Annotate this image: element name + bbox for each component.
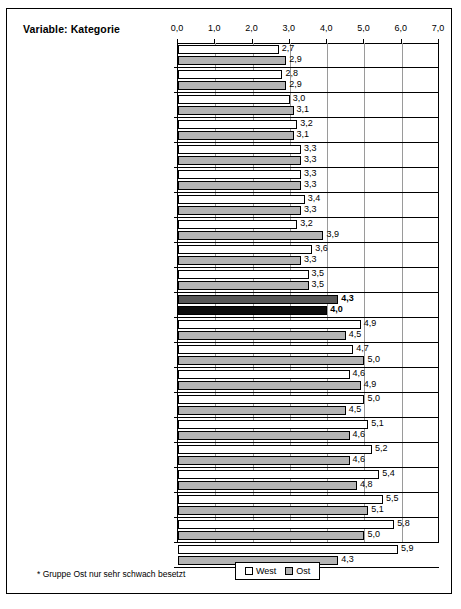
bar-value-label: 4,7	[356, 344, 369, 353]
legend: West Ost	[235, 562, 320, 580]
bar-ost	[178, 256, 301, 265]
chart-row: Arbeit mit Computer: nein5,24,6	[178, 443, 439, 468]
chart-row: Arbeitsorientierung: inhaltl.expressiv3,…	[178, 168, 439, 193]
bar-value-label: 5,4	[382, 469, 395, 478]
bar-west	[178, 195, 305, 204]
bar-value-label: 4,3	[341, 555, 354, 564]
bar-west	[178, 345, 353, 354]
bar-value-label: 4,6	[353, 430, 366, 439]
chart-row: Ältere: insgesamt4,34,0	[178, 293, 439, 318]
plot-area: Beschäftigungsstatus: verbeamtet*2,72,9A…	[177, 43, 439, 543]
bar-ost	[178, 356, 364, 365]
bar-west	[178, 120, 297, 129]
bar-west	[178, 70, 282, 79]
bar-value-label: 3,2	[300, 119, 313, 128]
x-tick-label: 6,0	[394, 23, 407, 33]
chart-row: Soziale Schicht: untere Schicht5,55,1	[178, 493, 439, 518]
bar-value-label: 5,0	[367, 394, 380, 403]
legend-label-west: West	[256, 566, 276, 576]
bar-west	[178, 370, 350, 379]
bar-value-label: 4,6	[353, 455, 366, 464]
bar-value-label: 5,9	[401, 544, 414, 553]
bar-ost	[178, 156, 301, 165]
bar-ost	[178, 181, 301, 190]
chart-row: Beschäftigungsstatus: verbeamtet*2,72,9	[178, 43, 439, 68]
chart-row: Erwerbsstatus: stille Reserve4,75,0	[178, 343, 439, 368]
bar-ost	[178, 506, 368, 515]
legend-item-ost: Ost	[285, 566, 310, 576]
chart-row: Berufsverlauf: aufwärts3,33,3	[178, 143, 439, 168]
bar-value-label: 3,3	[304, 155, 317, 164]
legend-swatch-west-icon	[245, 567, 253, 575]
bar-west	[178, 470, 379, 479]
bar-west	[178, 495, 383, 504]
bar-ost	[178, 281, 309, 290]
bar-value-label: 3,2	[300, 219, 313, 228]
chart-row: wirtschaftsbereich: Landwirtschaft etc.4…	[178, 368, 439, 393]
x-tick-label: 2,0	[245, 23, 258, 33]
bar-value-label: 3,5	[312, 280, 325, 289]
bar-value-label: 2,8	[285, 69, 298, 78]
bar-west	[178, 320, 361, 329]
chart-frame: Variable: Kategorie 0,01,02,03,04,05,06,…	[6, 8, 452, 594]
bar-ost	[178, 481, 357, 490]
bar-ost	[178, 81, 286, 90]
bar-ost	[178, 531, 364, 540]
bar-value-label: 5,1	[371, 505, 384, 514]
x-tick-label: 4,0	[320, 23, 333, 33]
bar-ost	[178, 381, 361, 390]
bar-ost	[178, 456, 350, 465]
bar-value-label: 3,3	[304, 169, 317, 178]
bar-west	[178, 220, 297, 229]
x-tick-label: 1,0	[208, 23, 221, 33]
bar-value-label: 3,3	[304, 205, 317, 214]
chart-row: Wahrnehmung sozioökonomischer Wandel: eh…	[178, 243, 439, 268]
legend-item-west: West	[245, 566, 276, 576]
bar-ost	[178, 206, 301, 215]
chart-row: Soziale Schicht: obere Schicht3,03,1	[178, 93, 439, 118]
bar-value-label: 5,0	[367, 355, 380, 364]
bar-value-label: 4,5	[349, 330, 362, 339]
bar-value-label: 4,9	[364, 319, 377, 328]
bar-value-label: 2,7	[282, 44, 295, 53]
bar-value-label: 3,1	[297, 130, 310, 139]
bar-west	[178, 545, 398, 554]
bar-ost	[178, 106, 294, 115]
bar-west	[178, 520, 394, 529]
bar-west	[178, 420, 368, 429]
bar-value-label: 4,0	[330, 305, 343, 314]
bar-value-label: 5,8	[397, 519, 410, 528]
bar-value-label: 3,3	[304, 180, 317, 189]
bar-value-label: 4,5	[349, 405, 362, 414]
bar-west	[178, 245, 312, 254]
x-tick-label: 5,0	[357, 23, 370, 33]
footnote: * Gruppe Ost nur sehr schwach besetzt	[37, 569, 185, 579]
chart-row: Mobilitätstyp: wenig mobil4,94,5	[178, 318, 439, 343]
chart-row: Erwerbstatus: arbeitslos5,44,8	[178, 468, 439, 493]
bar-value-label: 3,9	[326, 230, 339, 239]
bar-west	[178, 395, 364, 404]
bar-west	[178, 45, 279, 54]
bar-ost	[178, 431, 350, 440]
bar-west	[178, 95, 290, 104]
chart-row: Arbeitsorientierung: aufstiegsorientiert…	[178, 218, 439, 243]
x-tick-label: 0,0	[171, 23, 184, 33]
bar-value-label: 4,6	[353, 369, 366, 378]
bar-value-label: 5,0	[367, 530, 380, 539]
bar-west	[178, 145, 301, 154]
bar-ost	[178, 406, 346, 415]
chart-row: Ausbildungsniveau: FHS/IngSch/Uni2,82,9	[178, 68, 439, 93]
bar-value-label: 2,9	[289, 55, 302, 64]
chart-row: Wirtschaftsbereich: öffentlicher Dienst3…	[178, 268, 439, 293]
bar-value-label: 3,3	[304, 144, 317, 153]
chart-row: Arbeitsorientierung: mater.-reprod.5,14,…	[178, 418, 439, 443]
x-tick-label: 7,0	[432, 23, 445, 33]
bar-ost	[178, 331, 346, 340]
bar-value-label: 5,2	[375, 444, 388, 453]
bar-value-label: 3,6	[315, 244, 328, 253]
bar-west	[178, 170, 301, 179]
bar-west	[178, 295, 338, 304]
bar-ost	[178, 231, 323, 240]
chart-row: Freizeitaktivität: niedrig5,04,5	[178, 393, 439, 418]
bar-value-label: 4,3	[341, 294, 354, 303]
